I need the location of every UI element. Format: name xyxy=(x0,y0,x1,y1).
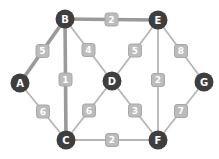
edge-E-G: 8 xyxy=(158,20,204,82)
edge-weight-label-F-G: 7 xyxy=(178,106,184,116)
node-label-C: C xyxy=(62,135,69,146)
node-label-B: B xyxy=(61,14,69,25)
node-E: E xyxy=(149,11,168,30)
edge-weight-label-C-D: 6 xyxy=(86,106,92,116)
edge-weight-label-E-G: 8 xyxy=(178,46,184,56)
edge-weight-label-E-F: 2 xyxy=(155,75,161,85)
edge-B-E: 2 xyxy=(65,13,158,26)
edge-weight-label-A-C: 6 xyxy=(40,107,46,117)
edge-D-E: 5 xyxy=(112,20,158,81)
node-A: A xyxy=(11,74,30,93)
edge-weight-label-B-D: 4 xyxy=(85,45,91,55)
edge-E-F: 2 xyxy=(152,20,165,140)
node-label-A: A xyxy=(16,78,24,89)
node-label-G: G xyxy=(200,77,208,88)
node-label-D: D xyxy=(108,76,116,87)
node-C: C xyxy=(57,131,76,150)
edge-weight-label-D-F: 3 xyxy=(132,106,138,116)
edge-weight-label-D-E: 5 xyxy=(132,46,138,56)
node-label-E: E xyxy=(155,15,162,26)
edge-weight-label-C-F: 2 xyxy=(109,135,115,145)
edge-C-F: 2 xyxy=(66,134,158,147)
edge-B-C: 1 xyxy=(59,19,72,140)
edge-C-D: 6 xyxy=(66,81,112,140)
graph-diagram: 521458266372ABCDEFG xyxy=(0,0,219,159)
edge-F-G: 7 xyxy=(158,82,204,140)
edge-A-C: 6 xyxy=(20,83,66,140)
edge-B-D: 4 xyxy=(65,19,112,81)
node-D: D xyxy=(103,72,122,91)
node-G: G xyxy=(195,73,214,92)
edge-weight-label-A-B: 5 xyxy=(39,46,45,56)
edge-D-F: 3 xyxy=(112,81,158,140)
node-B: B xyxy=(56,10,75,29)
edge-weight-label-B-C: 1 xyxy=(62,75,68,85)
edge-weight-label-B-E: 2 xyxy=(108,15,114,25)
node-F: F xyxy=(149,131,168,150)
node-label-F: F xyxy=(155,135,162,146)
graph-canvas: 521458266372ABCDEFG xyxy=(0,0,219,159)
edge-A-B: 5 xyxy=(20,19,65,83)
